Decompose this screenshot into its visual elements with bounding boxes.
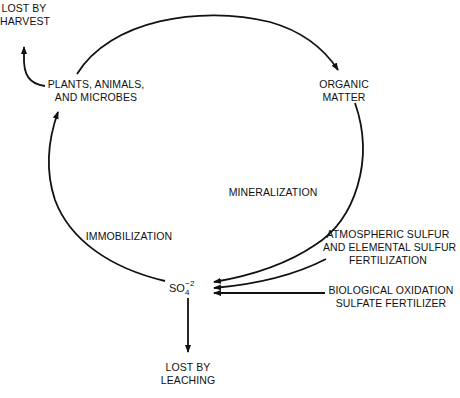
label-lost-by-leaching: LOST BY LEACHING	[160, 361, 216, 387]
label-lost-by-harvest: LOST BY HARVEST	[0, 2, 48, 28]
label-plants-animals-microbes: PLANTS, ANIMALS, AND MICROBES	[42, 78, 150, 104]
arrow-plants-to-organic	[77, 15, 338, 74]
arrow-atmospheric-to-sulfate	[214, 259, 326, 288]
label-sulfate: SO4−2	[169, 279, 194, 297]
label-mineralization: MINERALIZATION	[228, 186, 318, 199]
label-biological-oxidation: BIOLOGICAL OXIDATION SULFATE FERTILIZER	[326, 284, 456, 310]
label-atmospheric-sulfur: ATMOSPHERIC SULFUR AND ELEMENTAL SULFUR …	[323, 228, 453, 267]
label-immobilization: IMMOBILIZATION	[84, 230, 174, 243]
cycle-arrows	[0, 0, 460, 398]
label-organic-matter: ORGANIC MATTER	[308, 78, 380, 104]
arrow-sulfate-to-plants	[49, 112, 165, 281]
